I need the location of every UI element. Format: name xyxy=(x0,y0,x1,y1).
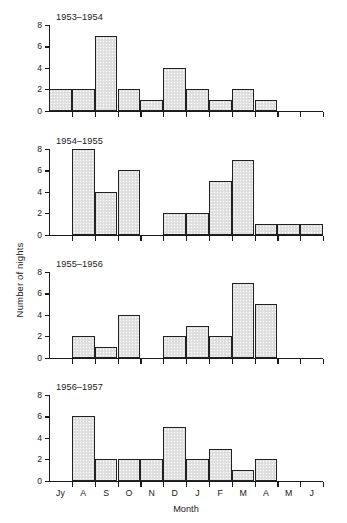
x-tick-label: J xyxy=(195,488,199,498)
panel-1: 1953–195402468 xyxy=(0,12,347,115)
x-axis-tick xyxy=(232,359,233,364)
bar xyxy=(255,224,278,235)
x-axis-tick xyxy=(186,236,187,241)
plot-area: 02468 xyxy=(49,395,323,482)
x-axis-tick xyxy=(323,112,324,117)
bar xyxy=(209,100,232,111)
bar xyxy=(140,459,163,480)
bar xyxy=(232,89,255,110)
y-axis-tick-label: 8 xyxy=(37,268,42,277)
y-axis-tick-label: 8 xyxy=(37,145,42,154)
bar xyxy=(209,336,232,357)
x-axis-tick xyxy=(277,236,278,241)
y-axis-tick-label: 0 xyxy=(37,106,42,115)
x-tick-label: A xyxy=(263,488,269,498)
x-axis-tick xyxy=(163,482,164,487)
x-axis-tick xyxy=(232,482,233,487)
bar xyxy=(72,89,95,110)
bar-group xyxy=(49,272,323,358)
bar xyxy=(95,36,118,111)
y-axis-tick-label: 2 xyxy=(37,85,42,94)
x-axis-tick-labels: JyASONDJFMAMJ xyxy=(49,488,323,500)
x-axis-tick xyxy=(95,112,96,117)
x-tick-label: D xyxy=(171,488,177,498)
x-axis-tick xyxy=(300,359,301,364)
x-axis-tick xyxy=(323,236,324,241)
x-tick-label: S xyxy=(103,488,109,498)
bar xyxy=(118,170,141,234)
x-axis-tick xyxy=(323,359,324,364)
panel-4: 1956–195702468 xyxy=(0,382,347,485)
x-axis-tick xyxy=(72,359,73,364)
bar xyxy=(163,336,186,357)
x-axis-tick xyxy=(140,482,141,487)
y-axis-tick-label: 8 xyxy=(37,21,42,30)
y-axis-tick xyxy=(45,235,50,236)
y-axis-tick xyxy=(45,358,50,359)
bar xyxy=(186,213,209,234)
x-axis-title: Month xyxy=(49,504,323,514)
x-axis-tick xyxy=(140,112,141,117)
panel-title: 1955–1956 xyxy=(56,259,103,269)
bar xyxy=(72,336,95,357)
x-axis-tick xyxy=(277,112,278,117)
y-axis-tick-label: 2 xyxy=(37,209,42,218)
bar xyxy=(95,192,118,235)
x-axis-tick xyxy=(300,482,301,487)
bar xyxy=(186,89,209,110)
panel-title: 1953–1954 xyxy=(56,12,103,22)
x-axis-tick xyxy=(277,482,278,487)
bar xyxy=(232,283,255,358)
panel-title: 1956–1957 xyxy=(56,382,103,392)
bar xyxy=(186,459,209,480)
bar xyxy=(163,68,186,111)
x-axis-tick xyxy=(209,359,210,364)
x-axis-tick xyxy=(72,236,73,241)
y-axis-tick-label: 0 xyxy=(37,476,42,485)
x-axis-tick xyxy=(95,236,96,241)
y-axis-tick-label: 2 xyxy=(37,455,42,464)
x-axis-tick xyxy=(209,236,210,241)
x-axis-tick xyxy=(255,236,256,241)
bar xyxy=(209,449,232,481)
x-axis-tick xyxy=(255,482,256,487)
y-axis-tick-label: 0 xyxy=(37,353,42,362)
y-axis-tick-label: 6 xyxy=(37,42,42,51)
bar xyxy=(232,470,255,481)
plot-area: 02468 xyxy=(49,25,323,112)
plot-area: 02468 xyxy=(49,149,323,236)
x-tick-label: N xyxy=(149,488,155,498)
y-axis-tick-label: 0 xyxy=(37,230,42,239)
bar xyxy=(232,160,255,235)
x-axis-tick xyxy=(186,112,187,117)
y-axis-tick-label: 4 xyxy=(37,310,42,319)
x-axis-tick xyxy=(277,359,278,364)
x-tick-label: M xyxy=(285,488,292,498)
y-axis-tick-label: 6 xyxy=(37,166,42,175)
x-axis-tick xyxy=(255,359,256,364)
bar xyxy=(255,459,278,480)
x-axis-tick xyxy=(163,359,164,364)
x-axis-tick xyxy=(118,482,119,487)
x-axis-tick xyxy=(232,236,233,241)
x-tick-label: A xyxy=(80,488,86,498)
x-axis-tick xyxy=(186,482,187,487)
y-axis-tick xyxy=(45,481,50,482)
bar xyxy=(300,224,323,235)
bar xyxy=(72,416,95,480)
bar xyxy=(255,304,278,358)
bar xyxy=(95,459,118,480)
bar xyxy=(277,224,300,235)
bar xyxy=(209,181,232,235)
y-axis-tick-label: 8 xyxy=(37,391,42,400)
x-axis-tick xyxy=(118,112,119,117)
panel-title: 1954–1955 xyxy=(56,136,103,146)
x-tick-label: M xyxy=(239,488,246,498)
y-axis-tick-label: 2 xyxy=(37,332,42,341)
x-axis-tick xyxy=(255,112,256,117)
y-axis-tick-label: 6 xyxy=(37,289,42,298)
x-axis-tick xyxy=(95,482,96,487)
figure-histogram-nights: Number of nights 1953–1954024681954–1955… xyxy=(0,0,347,523)
bar-group xyxy=(49,395,323,481)
bar xyxy=(163,213,186,234)
